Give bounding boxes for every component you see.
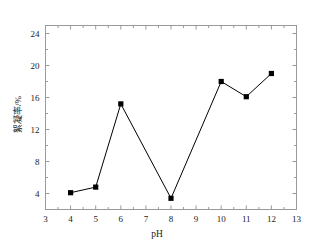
x-tick-label: 13 [292, 214, 302, 224]
y-tick-label: 12 [31, 125, 40, 135]
data-point-marker [244, 94, 249, 99]
x-tick-label: 12 [267, 214, 276, 224]
data-point-marker [168, 196, 173, 201]
x-axis-label: pH [0, 229, 314, 239]
y-axis-tick-labels: 4812162024 [31, 29, 41, 199]
y-tick-label: 20 [31, 61, 41, 71]
data-point-marker [269, 71, 274, 76]
x-axis-tick-labels: 345678910111213 [43, 214, 301, 224]
x-tick-label: 5 [93, 214, 98, 224]
x-tick-label: 6 [119, 214, 124, 224]
y-tick-label: 4 [35, 189, 40, 199]
y-tick-label: 16 [31, 93, 41, 103]
x-tick-label: 4 [68, 214, 73, 224]
x-tick-label: 7 [144, 214, 149, 224]
y-axis-label: 絮凝率/% [11, 77, 24, 153]
data-point-marker [219, 79, 224, 84]
y-tick-label: 8 [35, 157, 40, 167]
data-point-marker [68, 190, 73, 195]
plot-frame [46, 26, 297, 210]
y-tick-label: 24 [31, 29, 41, 39]
x-tick-label: 9 [194, 214, 199, 224]
y-axis-label-wrapper: 絮凝率/% [7, 0, 27, 251]
x-tick-label: 3 [43, 214, 48, 224]
chart-figure: 345678910111213 4812162024 pH 絮凝率/% [0, 0, 314, 251]
data-point-marker [118, 101, 123, 106]
data-point-marker [93, 185, 98, 190]
x-tick-label: 11 [242, 214, 251, 224]
x-tick-label: 10 [217, 214, 227, 224]
x-tick-label: 8 [169, 214, 174, 224]
line-chart-plot: 345678910111213 4812162024 [0, 0, 314, 251]
